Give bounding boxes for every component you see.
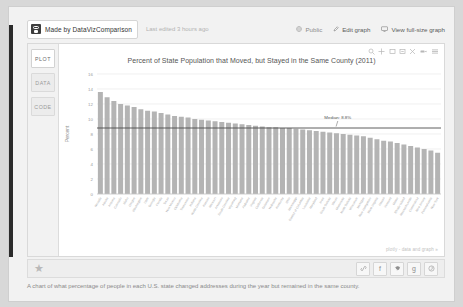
bar[interactable] (105, 97, 110, 194)
tab-data[interactable]: DATA (31, 73, 55, 92)
bar[interactable] (260, 127, 265, 195)
bar[interactable] (341, 134, 346, 194)
header-actions: Public Edit graph View full-size graph (296, 26, 445, 33)
plotly-credit[interactable]: plotly - data and graph » (386, 247, 438, 252)
bar[interactable] (422, 149, 427, 194)
view-full-size-button[interactable]: View full-size graph (381, 26, 445, 33)
bar[interactable] (98, 92, 103, 194)
pencil-icon (333, 26, 339, 32)
plot-area[interactable]: Percent of State Population that Moved, … (59, 44, 444, 256)
pinterest-icon (428, 265, 435, 272)
x-tick-label: Florida (155, 196, 163, 206)
social-buttons: f g (356, 262, 438, 276)
bar[interactable] (327, 133, 332, 195)
median-annotation-arrow (336, 121, 338, 127)
graph-card: PLOT DATA CODE (27, 43, 445, 257)
bar[interactable] (415, 148, 420, 195)
bar[interactable] (435, 153, 440, 194)
google-plus-icon: g (412, 265, 416, 272)
bar[interactable] (267, 127, 272, 194)
made-by-chip[interactable]: Made by DataVizComparison (27, 20, 138, 39)
bar[interactable] (354, 136, 359, 195)
bar[interactable] (287, 128, 292, 194)
bar[interactable] (138, 109, 143, 194)
facebook-icon: f (379, 265, 381, 272)
bar[interactable] (118, 104, 123, 194)
y-tick-label: 0 (91, 192, 94, 197)
share-bar: ★ f g (27, 259, 445, 278)
bar[interactable] (374, 139, 379, 194)
bar[interactable] (388, 142, 393, 195)
monitor-icon (381, 26, 388, 32)
y-tick-label: 4 (91, 162, 94, 167)
bar[interactable] (314, 131, 319, 194)
bar[interactable] (145, 111, 150, 194)
bar[interactable] (125, 106, 130, 195)
user-avatar-icon (31, 24, 41, 34)
bar[interactable] (300, 130, 305, 195)
y-tick-label: 10 (88, 117, 93, 122)
y-tick-label: 16 (88, 72, 93, 77)
y-tick-label: 8 (91, 132, 94, 137)
graph-page: Made by DataVizComparison Last edited 3 … (8, 6, 455, 302)
median-annotation: Median: 8.8% (324, 115, 351, 120)
bar[interactable] (361, 136, 366, 194)
bar[interactable] (152, 112, 157, 195)
bar[interactable] (206, 121, 211, 195)
bar[interactable] (186, 118, 191, 195)
bar[interactable] (401, 145, 406, 195)
graph-header: Made by DataVizComparison Last edited 3 … (27, 19, 445, 39)
bar[interactable] (280, 128, 285, 194)
bar[interactable] (219, 122, 224, 194)
bar[interactable] (199, 120, 204, 194)
bar[interactable] (213, 121, 218, 194)
y-tick-label: 14 (88, 87, 93, 92)
bar[interactable] (368, 138, 373, 194)
x-tick-label: Nevada (94, 196, 103, 207)
share-link-button[interactable] (356, 262, 370, 276)
tab-code[interactable]: CODE (31, 97, 55, 116)
edit-graph-button[interactable]: Edit graph (333, 26, 370, 33)
globe-icon (296, 26, 302, 32)
bar[interactable] (159, 113, 164, 194)
public-badge[interactable]: Public (296, 26, 322, 33)
graph-tabs: PLOT DATA CODE (28, 44, 59, 256)
bar[interactable] (293, 129, 298, 194)
bar[interactable] (347, 135, 352, 194)
bar[interactable] (320, 132, 325, 194)
bar-chart[interactable]: 0246810121416PercentNevadaAlaskaArizonaC… (59, 44, 447, 256)
y-tick-label: 12 (88, 102, 93, 107)
bar[interactable] (233, 124, 238, 195)
share-twitter-button[interactable] (390, 262, 404, 276)
share-facebook-button[interactable]: f (373, 262, 387, 276)
y-tick-label: 6 (91, 147, 94, 152)
bar[interactable] (111, 101, 116, 194)
bar[interactable] (428, 151, 433, 195)
bar[interactable] (273, 127, 278, 194)
tab-code-label: CODE (34, 104, 51, 110)
tab-plot[interactable]: PLOT (31, 49, 55, 68)
link-icon (360, 265, 367, 272)
bar[interactable] (253, 126, 258, 194)
bar[interactable] (192, 119, 197, 194)
graph-caption: A chart of what percentage of people in … (27, 283, 445, 291)
y-axis-label: Percent (65, 125, 70, 142)
bar[interactable] (246, 125, 251, 194)
bar[interactable] (165, 115, 170, 195)
y-tick-label: 2 (91, 177, 94, 182)
bar[interactable] (226, 123, 231, 194)
bar[interactable] (307, 130, 312, 194)
bar[interactable] (408, 146, 413, 194)
bar[interactable] (395, 143, 400, 194)
bar[interactable] (381, 141, 386, 194)
page-accent-bar (9, 25, 13, 257)
public-label: Public (305, 26, 322, 33)
share-pinterest-button[interactable] (424, 262, 438, 276)
share-googleplus-button[interactable]: g (407, 262, 421, 276)
view-full-size-label: View full-size graph (391, 26, 445, 33)
bar[interactable] (334, 133, 339, 194)
last-edited-label: Last edited 3 hours ago (146, 26, 209, 32)
bar[interactable] (132, 107, 137, 194)
star-icon[interactable]: ★ (34, 263, 44, 274)
bar[interactable] (240, 124, 245, 194)
